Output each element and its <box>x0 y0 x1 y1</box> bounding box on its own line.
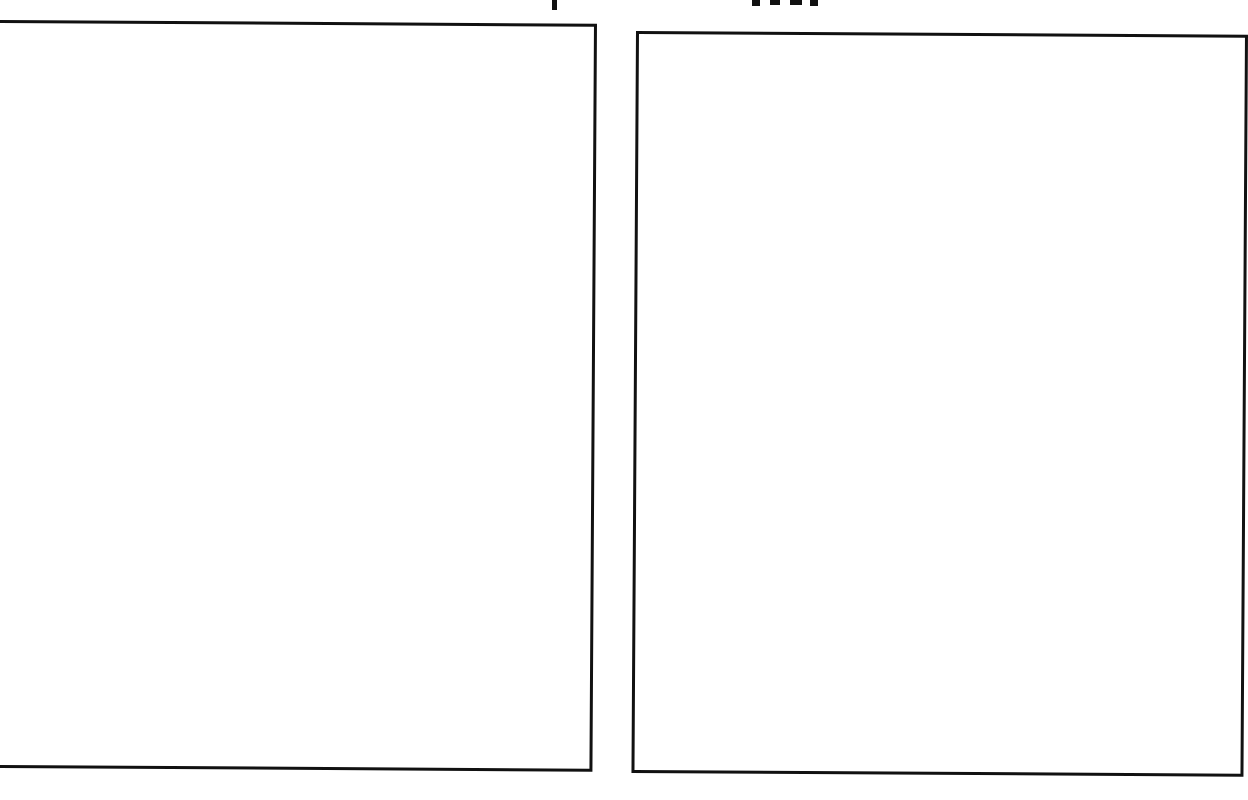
title-glyph-fragment <box>790 0 802 5</box>
empty-panel-left: Panel 1 <box>0 20 597 772</box>
cropped-page-title <box>0 0 1240 10</box>
title-glyph-fragment <box>770 0 780 5</box>
title-glyph-fragment <box>552 0 557 10</box>
title-glyph-fragment <box>810 0 818 6</box>
empty-panel-right: Panel 2 <box>631 31 1248 777</box>
title-glyph-fragment <box>752 0 760 6</box>
